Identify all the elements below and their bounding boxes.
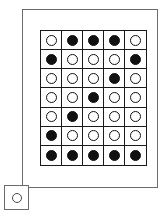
- filled-circle-icon: [67, 111, 78, 122]
- grid-cell[interactable]: [41, 50, 62, 69]
- grid-cell[interactable]: [125, 50, 146, 69]
- open-circle-icon: [46, 92, 57, 103]
- filled-circle-icon: [109, 73, 120, 84]
- grid-cell[interactable]: [104, 108, 125, 127]
- filled-circle-icon: [88, 92, 99, 103]
- grid-cell[interactable]: [41, 146, 62, 165]
- legend-box: [4, 185, 29, 210]
- open-circle-icon: [46, 35, 57, 46]
- filled-circle-icon: [130, 150, 141, 161]
- grid-cell[interactable]: [104, 69, 125, 88]
- grid-cell[interactable]: [62, 50, 83, 69]
- open-circle-icon: [109, 54, 120, 65]
- open-circle-icon: [109, 111, 120, 122]
- grid-cell[interactable]: [62, 69, 83, 88]
- filled-circle-icon: [46, 54, 57, 65]
- grid-cell[interactable]: [104, 127, 125, 146]
- filled-circle-icon: [88, 35, 99, 46]
- open-circle-icon: [130, 73, 141, 84]
- open-circle-icon: [130, 92, 141, 103]
- grid-cell[interactable]: [104, 50, 125, 69]
- grid-cell[interactable]: [62, 146, 83, 165]
- open-circle-icon: [109, 130, 120, 141]
- grid-cell[interactable]: [41, 31, 62, 50]
- grid-cell[interactable]: [125, 88, 146, 107]
- grid-cell[interactable]: [104, 31, 125, 50]
- grid-cell[interactable]: [125, 31, 146, 50]
- open-circle-icon: [46, 111, 57, 122]
- open-circle-icon: [88, 54, 99, 65]
- grid-cell[interactable]: [83, 88, 104, 107]
- open-circle-icon: [67, 130, 78, 141]
- grid-cell[interactable]: [83, 146, 104, 165]
- grid-cell[interactable]: [125, 127, 146, 146]
- filled-circle-icon: [67, 35, 78, 46]
- grid-cell[interactable]: [125, 108, 146, 127]
- filled-circle-icon: [67, 150, 78, 161]
- grid-cell[interactable]: [62, 88, 83, 107]
- grid-cell[interactable]: [41, 88, 62, 107]
- grid-cell[interactable]: [104, 146, 125, 165]
- open-circle-icon: [67, 54, 78, 65]
- filled-circle-icon: [109, 150, 120, 161]
- grid-cell[interactable]: [83, 31, 104, 50]
- open-circle-icon: [67, 73, 78, 84]
- grid-cell[interactable]: [83, 108, 104, 127]
- diagram-canvas: [0, 0, 168, 220]
- open-circle-icon: [109, 92, 120, 103]
- grid-cell[interactable]: [41, 108, 62, 127]
- legend-open-circle-icon: [12, 193, 22, 203]
- circle-grid: [40, 30, 147, 166]
- open-circle-icon: [130, 111, 141, 122]
- grid-cell[interactable]: [41, 127, 62, 146]
- open-circle-icon: [130, 130, 141, 141]
- filled-circle-icon: [109, 35, 120, 46]
- filled-circle-icon: [46, 130, 57, 141]
- grid-cell[interactable]: [83, 50, 104, 69]
- filled-circle-icon: [130, 54, 141, 65]
- open-circle-icon: [88, 111, 99, 122]
- filled-circle-icon: [46, 150, 57, 161]
- grid-cell[interactable]: [62, 108, 83, 127]
- grid-cell[interactable]: [104, 88, 125, 107]
- filled-circle-icon: [88, 150, 99, 161]
- grid-cell[interactable]: [62, 127, 83, 146]
- open-circle-icon: [67, 92, 78, 103]
- open-circle-icon: [46, 73, 57, 84]
- grid-cell[interactable]: [125, 146, 146, 165]
- open-circle-icon: [130, 35, 141, 46]
- grid-cell[interactable]: [125, 69, 146, 88]
- grid-cell[interactable]: [83, 127, 104, 146]
- grid-cell[interactable]: [83, 69, 104, 88]
- grid-cell[interactable]: [41, 69, 62, 88]
- open-circle-icon: [88, 130, 99, 141]
- open-circle-icon: [88, 73, 99, 84]
- grid-cell[interactable]: [62, 31, 83, 50]
